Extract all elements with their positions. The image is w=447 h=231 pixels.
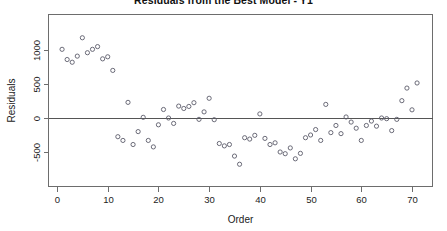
data-point [121, 138, 125, 142]
data-point [253, 133, 257, 137]
data-point [324, 102, 328, 106]
data-point [273, 141, 277, 145]
y-tick-label: 1000 [31, 40, 42, 61]
data-point [268, 142, 272, 146]
data-point [95, 45, 99, 49]
data-point [258, 112, 262, 116]
x-axis-title: Order [228, 214, 254, 225]
data-point [227, 142, 231, 146]
y-tick-label: 0 [31, 116, 42, 121]
data-point [197, 117, 201, 121]
y-tick-label: 500 [31, 77, 42, 93]
data-point [172, 121, 176, 125]
data-point [369, 119, 373, 123]
data-point [415, 81, 419, 85]
x-tick-label: 10 [103, 194, 114, 205]
data-point [65, 57, 69, 61]
data-point [303, 136, 307, 140]
data-point [177, 104, 181, 108]
data-point [314, 127, 318, 131]
x-tick-label: 70 [407, 194, 418, 205]
data-point [131, 142, 135, 146]
data-point [106, 55, 110, 59]
data-point [405, 86, 409, 90]
data-point [217, 141, 221, 145]
data-point [116, 135, 120, 139]
data-point [298, 151, 302, 155]
data-point [243, 136, 247, 140]
scatter-plot-canvas: 010203040506070-50005001000OrderResidual… [0, 0, 447, 231]
data-point [319, 138, 323, 142]
data-point [293, 157, 297, 161]
data-point [192, 101, 196, 105]
data-point [75, 54, 79, 58]
data-point [374, 124, 378, 128]
data-point [126, 100, 130, 104]
data-points-group [60, 36, 419, 167]
data-point [283, 152, 287, 156]
y-axis-title: Residuals [6, 79, 17, 123]
x-tick-label: 40 [255, 194, 266, 205]
x-tick-label: 30 [204, 194, 215, 205]
data-point [339, 132, 343, 136]
data-point [410, 108, 414, 112]
data-point [222, 144, 226, 148]
x-tick-label: 0 [55, 194, 60, 205]
data-point [364, 123, 368, 127]
data-point [202, 110, 206, 114]
data-point [85, 51, 89, 55]
data-point [182, 106, 186, 110]
data-point [329, 131, 333, 135]
data-point [354, 126, 358, 130]
data-point [248, 137, 252, 141]
data-point [111, 68, 115, 72]
data-point [232, 154, 236, 158]
data-point [207, 96, 211, 100]
data-point [60, 47, 64, 51]
axis-ticks-group [44, 51, 413, 192]
plot-frame-group [49, 15, 433, 187]
y-tick-label: -500 [31, 143, 42, 162]
data-point [390, 128, 394, 132]
data-point [146, 138, 150, 142]
data-point [400, 99, 404, 103]
data-point [359, 138, 363, 142]
data-point [156, 123, 160, 127]
data-point [237, 162, 241, 166]
x-tick-label: 50 [306, 194, 317, 205]
data-point [161, 107, 165, 111]
data-point [288, 146, 292, 150]
x-tick-label: 60 [356, 194, 367, 205]
data-point [334, 123, 338, 127]
data-point [278, 150, 282, 154]
data-point [349, 120, 353, 124]
data-point [136, 130, 140, 134]
data-point [395, 117, 399, 121]
residual-plot: Residuals from the Best Model - Y1 01020… [0, 0, 447, 231]
data-point [151, 145, 155, 149]
x-tick-label: 20 [153, 194, 164, 205]
data-point [101, 57, 105, 61]
data-point [187, 104, 191, 108]
axis-labels-group: 010203040506070-50005001000OrderResidual… [6, 40, 418, 225]
plot-box [49, 15, 433, 187]
data-point [80, 36, 84, 40]
data-point [90, 47, 94, 51]
data-point [70, 60, 74, 64]
data-point [308, 133, 312, 137]
data-point [263, 136, 267, 140]
